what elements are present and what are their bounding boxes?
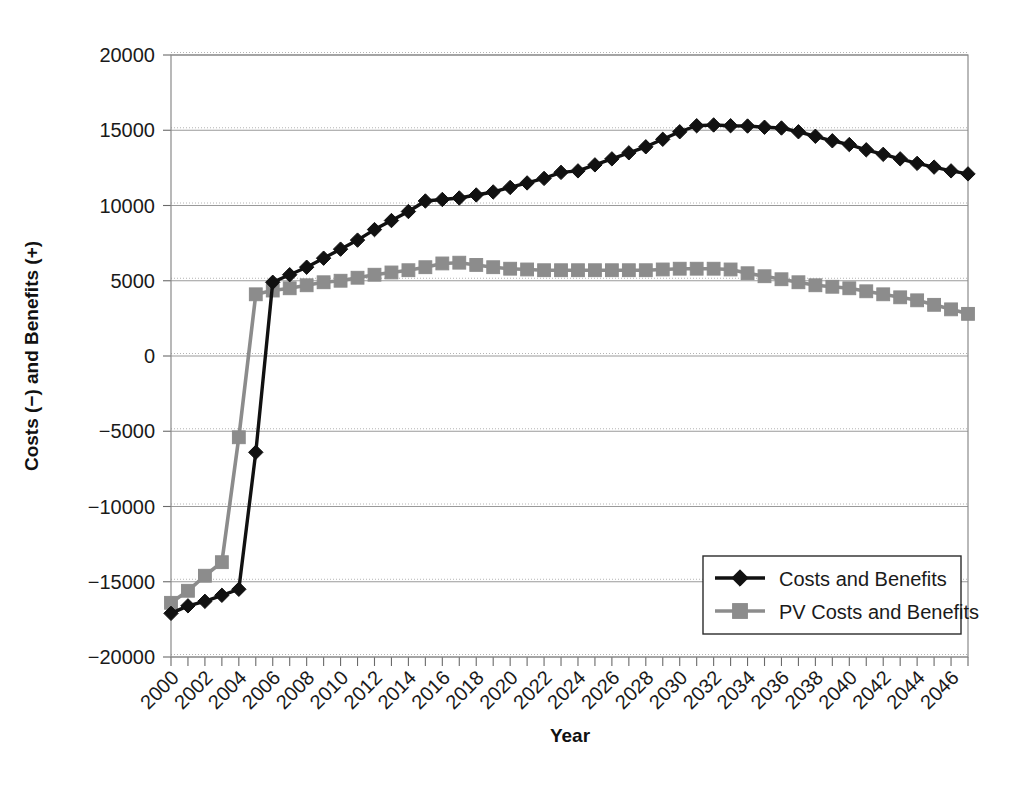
data-point-marker bbox=[724, 263, 737, 276]
data-point-marker bbox=[775, 273, 788, 286]
data-point-marker bbox=[690, 262, 703, 275]
data-point-marker bbox=[741, 267, 754, 280]
data-point-marker bbox=[249, 288, 262, 301]
chart-legend: Costs and BenefitsPV Costs and Benefits bbox=[703, 556, 979, 634]
data-point-marker bbox=[826, 280, 839, 293]
y-tick-label: 15000 bbox=[99, 119, 155, 141]
y-tick-label: −10000 bbox=[88, 496, 155, 518]
data-point-marker bbox=[572, 264, 585, 277]
data-point-marker bbox=[232, 431, 245, 444]
data-point-marker bbox=[707, 262, 720, 275]
data-point-marker bbox=[470, 259, 483, 272]
data-point-marker bbox=[453, 256, 466, 269]
y-tick-label: 0 bbox=[144, 345, 155, 367]
data-point-marker bbox=[504, 262, 517, 275]
legend-item-label: Costs and Benefits bbox=[779, 568, 947, 590]
data-point-marker bbox=[182, 584, 195, 597]
data-point-marker bbox=[860, 285, 873, 298]
data-point-marker bbox=[436, 257, 449, 270]
data-point-marker bbox=[809, 279, 822, 292]
data-point-marker bbox=[555, 264, 568, 277]
chart-container: 20000150001000050000−5000−10000−15000−20… bbox=[0, 0, 1016, 788]
data-point-marker bbox=[402, 264, 415, 277]
legend-item-label: PV Costs and Benefits bbox=[779, 601, 979, 623]
y-tick-label: −20000 bbox=[88, 646, 155, 668]
data-point-marker bbox=[215, 556, 228, 569]
data-point-marker bbox=[758, 270, 771, 283]
y-axis-title: Costs (−) and Benefits (+) bbox=[21, 241, 42, 471]
data-point-marker bbox=[877, 288, 890, 301]
data-point-marker bbox=[945, 303, 958, 316]
data-point-marker bbox=[792, 276, 805, 289]
legend-marker-square-icon bbox=[733, 604, 748, 619]
data-point-marker bbox=[843, 282, 856, 295]
data-point-marker bbox=[622, 264, 635, 277]
y-tick-label: 10000 bbox=[99, 195, 155, 217]
data-point-marker bbox=[656, 263, 669, 276]
x-axis-title: Year bbox=[550, 725, 591, 746]
data-point-marker bbox=[300, 279, 313, 292]
data-point-marker bbox=[911, 294, 924, 307]
y-tick-label: 5000 bbox=[111, 270, 156, 292]
data-point-marker bbox=[589, 264, 602, 277]
data-point-marker bbox=[605, 264, 618, 277]
data-point-marker bbox=[385, 266, 398, 279]
data-point-marker bbox=[538, 264, 551, 277]
data-point-marker bbox=[487, 261, 500, 274]
data-point-marker bbox=[521, 263, 534, 276]
data-point-marker bbox=[639, 264, 652, 277]
y-tick-label: −15000 bbox=[88, 571, 155, 593]
data-point-marker bbox=[351, 271, 364, 284]
data-point-marker bbox=[283, 282, 296, 295]
data-point-marker bbox=[334, 274, 347, 287]
y-tick-label: 20000 bbox=[99, 44, 155, 66]
data-point-marker bbox=[673, 262, 686, 275]
data-point-marker bbox=[894, 291, 907, 304]
data-point-marker bbox=[199, 569, 212, 582]
data-point-marker bbox=[368, 268, 381, 281]
y-tick-label: −5000 bbox=[99, 420, 155, 442]
data-point-marker bbox=[317, 276, 330, 289]
data-point-marker bbox=[962, 307, 975, 320]
data-point-marker bbox=[928, 298, 941, 311]
costs-benefits-line-chart: 20000150001000050000−5000−10000−15000−20… bbox=[0, 0, 1016, 788]
data-point-marker bbox=[419, 261, 432, 274]
